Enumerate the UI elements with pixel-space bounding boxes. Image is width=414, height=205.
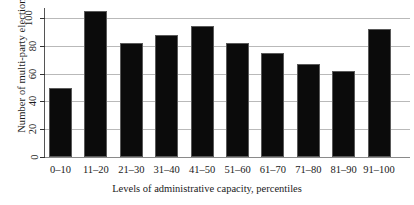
y-tick-label: 0 bbox=[29, 154, 40, 159]
y-tick-mark bbox=[40, 129, 45, 130]
x-axis-title: Levels of administrative capacity, perce… bbox=[0, 183, 414, 194]
y-tick-mark bbox=[40, 46, 45, 47]
bar-chart: Number of multi-party elections 02040608… bbox=[0, 0, 414, 205]
plot-area: 020406080100 bbox=[44, 8, 410, 157]
bar bbox=[49, 88, 72, 158]
bar bbox=[120, 43, 143, 157]
bar bbox=[226, 43, 249, 157]
bar bbox=[368, 29, 391, 157]
bar bbox=[191, 26, 214, 157]
y-tick-label: 100 bbox=[24, 10, 35, 26]
y-tick-label: 40 bbox=[26, 96, 37, 107]
y-tick-mark bbox=[40, 74, 45, 75]
y-tick-mark bbox=[40, 101, 45, 102]
bar bbox=[155, 35, 178, 157]
y-tick-mark bbox=[40, 18, 45, 19]
bar bbox=[297, 64, 320, 157]
y-tick-label: 60 bbox=[26, 68, 37, 79]
y-tick-label: 80 bbox=[26, 41, 37, 52]
y-tick-label: 20 bbox=[26, 124, 37, 135]
y-tick-mark bbox=[40, 157, 45, 158]
bar bbox=[332, 71, 355, 157]
x-axis-line bbox=[40, 157, 410, 158]
bar bbox=[84, 11, 107, 157]
bar bbox=[261, 53, 284, 157]
x-tick-label: 91–100 bbox=[357, 164, 401, 175]
